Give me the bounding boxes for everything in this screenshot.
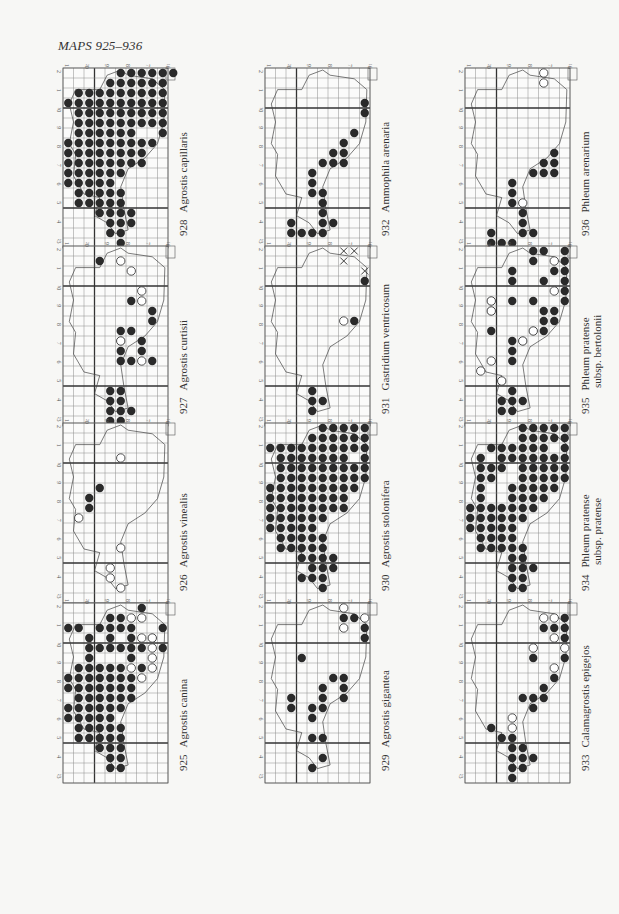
filled-dot xyxy=(117,624,125,632)
map-caption-931: 931Gastridium ventricosum xyxy=(379,284,391,414)
filled-dot xyxy=(508,297,516,305)
filled-dot xyxy=(308,229,316,237)
filled-dot xyxy=(361,474,369,482)
open-dot xyxy=(498,377,506,385)
svg-text:8: 8 xyxy=(527,242,533,245)
svg-text:7: 7 xyxy=(458,164,464,167)
svg-text:²0: ²0 xyxy=(286,419,292,424)
filled-dot xyxy=(75,89,83,97)
filled-dot xyxy=(266,494,274,502)
svg-text:7: 7 xyxy=(347,64,353,67)
open-dot xyxy=(519,199,527,207)
grid-map: 1²0987¹621³0987654²3 xyxy=(255,595,379,781)
filled-dot xyxy=(498,464,506,472)
svg-text:1: 1 xyxy=(266,599,272,602)
svg-text:8: 8 xyxy=(125,419,131,422)
filled-dot xyxy=(319,454,327,462)
filled-dot xyxy=(85,169,93,177)
filled-dot xyxy=(508,764,516,772)
filled-dot xyxy=(96,724,104,732)
svg-text:9: 9 xyxy=(306,64,312,67)
filled-dot xyxy=(498,504,506,512)
filled-dot xyxy=(106,387,114,395)
open-dot xyxy=(138,614,146,622)
filled-dot xyxy=(340,159,348,167)
filled-dot xyxy=(540,624,548,632)
map-caption-934: 934Phleum pratensesubsp. pratense xyxy=(579,494,603,591)
filled-dot xyxy=(85,694,93,702)
map-caption-930: 930Agrostis stolonifera xyxy=(379,480,391,591)
filled-dot xyxy=(519,544,527,552)
filled-dot xyxy=(329,554,337,562)
filled-dot xyxy=(85,99,93,107)
svg-text:¹6: ¹6 xyxy=(165,599,171,604)
filled-dot xyxy=(340,694,348,702)
svg-text:¹6: ¹6 xyxy=(367,64,373,69)
filled-dot xyxy=(519,434,527,442)
filled-dot xyxy=(340,474,348,482)
species-name: Agrostis curtisii xyxy=(177,320,189,391)
page-title: MAPS 925–936 xyxy=(58,38,142,54)
filled-dot xyxy=(308,179,316,187)
open-dot xyxy=(340,624,348,632)
svg-text:1: 1 xyxy=(258,444,264,447)
svg-text:¹6: ¹6 xyxy=(367,599,373,604)
filled-dot xyxy=(540,159,548,167)
filled-dot xyxy=(529,504,537,512)
filled-dot xyxy=(117,764,125,772)
svg-text:1: 1 xyxy=(64,64,70,67)
filled-dot xyxy=(148,357,156,365)
filled-dot xyxy=(138,644,146,652)
filled-dot xyxy=(106,189,114,197)
open-dot xyxy=(148,654,156,662)
filled-dot xyxy=(550,434,558,442)
filled-dot xyxy=(298,464,306,472)
svg-text:8: 8 xyxy=(56,500,62,503)
filled-dot xyxy=(561,434,569,442)
filled-dot xyxy=(477,544,485,552)
filled-dot xyxy=(529,424,537,432)
filled-dot xyxy=(298,554,306,562)
filled-dot xyxy=(64,179,72,187)
filled-dot xyxy=(148,69,156,77)
filled-dot xyxy=(319,434,327,442)
filled-dot xyxy=(159,69,167,77)
filled-dot xyxy=(117,674,125,682)
svg-text:¹6: ¹6 xyxy=(367,419,373,424)
filled-dot xyxy=(329,149,337,157)
open-dot xyxy=(508,714,516,722)
svg-text:1: 1 xyxy=(466,242,472,245)
filled-dot xyxy=(508,444,516,452)
open-dot xyxy=(138,634,146,642)
filled-dot xyxy=(159,129,167,137)
svg-text:6: 6 xyxy=(258,361,264,364)
map-number: 927 xyxy=(177,398,189,415)
filled-dot xyxy=(561,624,569,632)
svg-text:7: 7 xyxy=(56,164,62,167)
open-dot xyxy=(117,257,125,265)
filled-dot xyxy=(96,199,104,207)
filled-dot xyxy=(75,199,83,207)
filled-dot xyxy=(529,754,537,762)
filled-dot xyxy=(85,149,93,157)
distribution-map-925: 1²0987¹621³0987654²3 xyxy=(53,595,177,781)
filled-dot xyxy=(85,724,93,732)
species-name: Phleum pratense xyxy=(579,494,591,567)
filled-dot xyxy=(540,464,548,472)
svg-text:4: 4 xyxy=(56,755,62,758)
filled-dot xyxy=(487,544,495,552)
svg-text:9: 9 xyxy=(104,419,110,422)
filled-dot xyxy=(561,634,569,642)
filled-dot xyxy=(361,634,369,642)
filled-dot xyxy=(550,454,558,462)
filled-dot xyxy=(550,159,558,167)
svg-text:6: 6 xyxy=(56,718,62,721)
filled-dot xyxy=(329,464,337,472)
filled-dot xyxy=(550,267,558,275)
filled-dot xyxy=(106,119,114,127)
svg-text:¹6: ¹6 xyxy=(567,419,573,424)
filled-dot xyxy=(277,504,285,512)
svg-text:2: 2 xyxy=(458,248,464,251)
svg-text:8: 8 xyxy=(125,599,131,602)
svg-text:1: 1 xyxy=(56,624,62,627)
